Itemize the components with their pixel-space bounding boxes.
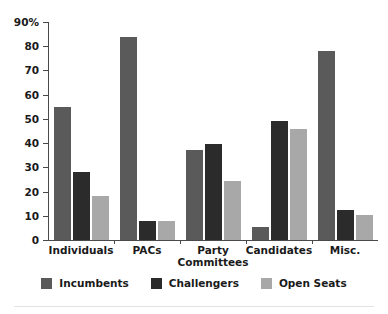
x-tick-label-line: PACs — [133, 244, 162, 256]
bar-group — [48, 22, 378, 240]
x-tick-label: PartyCommittees — [178, 244, 249, 268]
x-tick-label: Individuals — [49, 244, 114, 256]
y-tick-label: 0 — [32, 235, 39, 246]
legend-swatch — [151, 278, 162, 289]
x-tick-label: Candidates — [246, 244, 312, 256]
y-tick-label: 40 — [24, 138, 39, 149]
x-tick-label-line: Individuals — [49, 244, 114, 256]
legend-item: Incumbents — [41, 278, 128, 289]
x-group-separator — [312, 240, 313, 244]
legend-label: Open Seats — [279, 278, 347, 289]
x-tick-label: PACs — [133, 244, 162, 256]
y-tick-label: 60 — [24, 89, 39, 100]
bar — [337, 210, 354, 240]
y-tick-label: 70 — [24, 65, 39, 76]
bar — [318, 51, 335, 240]
legend-label: Challengers — [169, 278, 239, 289]
y-tick-label: 30 — [24, 162, 39, 173]
bar-chart: 0102030405060708090% IndividualsPACsPart… — [0, 0, 388, 314]
chart-legend: IncumbentsChallengersOpen Seats — [0, 278, 388, 289]
legend-swatch — [41, 278, 52, 289]
bar — [356, 215, 373, 240]
x-group-separator — [180, 240, 181, 244]
y-tick-label: 10 — [24, 211, 39, 222]
y-tick-label: 80 — [24, 41, 39, 52]
plot-area: 0102030405060708090% IndividualsPACsPart… — [48, 22, 378, 240]
x-group-separator — [246, 240, 247, 244]
x-tick-label-line: Candidates — [246, 244, 312, 256]
x-tick-label-line: Committees — [178, 256, 249, 268]
x-tick-label: Misc. — [330, 244, 361, 256]
legend-label: Incumbents — [59, 278, 128, 289]
x-tick-label-line: Party — [197, 244, 229, 256]
y-tick-label: 90% — [14, 17, 39, 28]
y-tick-label: 20 — [24, 186, 39, 197]
legend-swatch — [261, 278, 272, 289]
y-tick-mark — [43, 240, 48, 241]
x-axis-line — [48, 240, 378, 241]
legend-item: Challengers — [151, 278, 239, 289]
x-group-separator — [114, 240, 115, 244]
legend-item: Open Seats — [261, 278, 347, 289]
y-tick-label: 50 — [24, 114, 39, 125]
bottom-divider — [14, 306, 374, 307]
x-tick-label-line: Misc. — [330, 244, 361, 256]
